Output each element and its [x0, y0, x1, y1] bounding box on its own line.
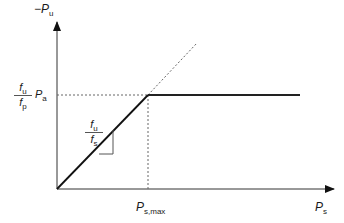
plateau-numerator: fu [19, 81, 27, 95]
y-axis-label-main: −P [34, 2, 49, 16]
slope-label-fraction: fu fs [85, 118, 103, 147]
plateau-label-suffix: Pa [35, 89, 47, 100]
x-axis-label: Ps [315, 201, 327, 213]
elastic-extension-dashed-line [148, 43, 197, 95]
y-axis-label: −Pu [34, 3, 53, 15]
knee-x-label: Ps,max [136, 201, 165, 213]
y-axis-label-sub: u [49, 9, 53, 18]
plateau-label-fraction: fu fp [14, 81, 32, 110]
slope-numerator: fu [90, 118, 98, 132]
slope-denominator: fs [90, 133, 97, 147]
diagram-canvas [0, 0, 344, 223]
plateau-denominator: fp [19, 96, 27, 110]
